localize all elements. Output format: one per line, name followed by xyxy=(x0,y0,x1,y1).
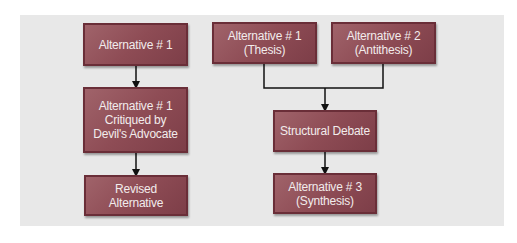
merge-connector xyxy=(264,64,383,88)
node-alternative-1-critiqued: Alternative # 1 Critiqued by Devil's Adv… xyxy=(83,87,188,153)
node-thesis: Alternative # 1 (Thesis) xyxy=(212,22,317,64)
node-synthesis: Alternative # 3 (Synthesis) xyxy=(273,173,377,214)
node-revised-alternative: Revised Alternative xyxy=(84,175,188,216)
node-antithesis: Alternative # 2 (Antithesis) xyxy=(331,22,436,64)
node-alternative-1: Alternative # 1 xyxy=(83,23,188,66)
node-structural-debate: Structural Debate xyxy=(273,110,377,152)
